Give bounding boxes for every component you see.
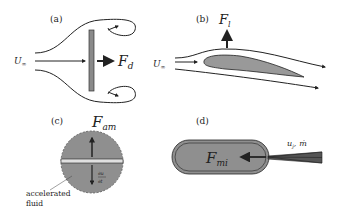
jet-label: uj,ṁ: [287, 139, 307, 150]
panel-a: (a) U∞ Fd: [14, 14, 135, 103]
figure: (a) U∞ Fd (b) Fl U∞ (c) Fam ∂u ∂t accele…: [0, 0, 342, 213]
panel-d: (d) Fmi uj,ṁ: [172, 116, 322, 174]
panel-d-label: (d): [196, 116, 209, 126]
streamline-top: [35, 19, 135, 53]
svg-text:∂u: ∂u: [98, 170, 104, 176]
panel-c: (c) Fam ∂u ∂t accelerated fluid: [26, 113, 123, 208]
svg-text:U∞: U∞: [153, 59, 166, 70]
streamline-lower: [175, 69, 318, 88]
svg-text:U∞: U∞: [14, 56, 27, 67]
plate: [61, 159, 123, 163]
panel-b-label: (b): [196, 14, 209, 24]
panel-a-label: (a): [50, 14, 62, 24]
panel-b: (b) Fl U∞: [153, 12, 325, 88]
panel-c-label: (c): [51, 116, 63, 126]
lift-force-label: Fl: [218, 12, 231, 29]
drag-force-label: Fd: [117, 53, 134, 71]
annotation-accelerated: accelerated: [26, 189, 71, 198]
added-mass-force-label: Fam: [91, 113, 116, 132]
flat-plate: [89, 30, 94, 91]
annotation-fluid: fluid: [26, 199, 43, 208]
streamline-bottom: [35, 70, 135, 103]
